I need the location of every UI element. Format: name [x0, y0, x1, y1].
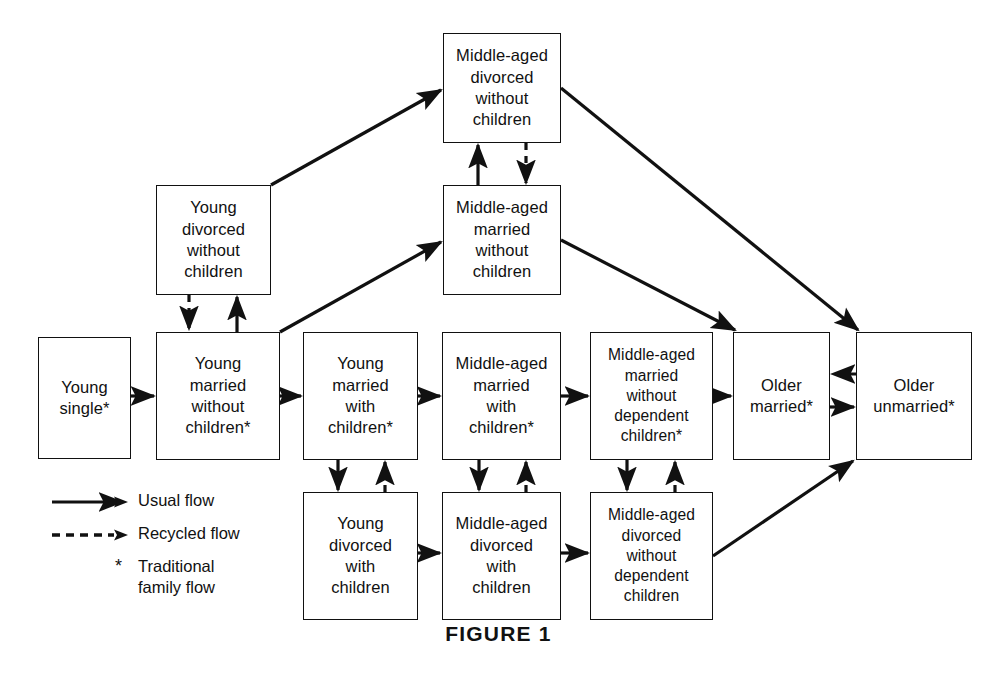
- edge-middle-aged-divorced-without-children-to-older-unmarried: [561, 88, 858, 330]
- node-middle-aged-divorced-with-children[interactable]: Middle-aged divorced with children: [442, 492, 561, 620]
- figure-caption: FIGURE 1: [0, 622, 997, 646]
- legend-label-recycled-flow: Recycled flow: [138, 523, 240, 544]
- node-older-unmarried[interactable]: Older unmarried*: [856, 332, 972, 460]
- node-young-married-without-children[interactable]: Young married without children*: [156, 332, 280, 460]
- edge-young-married-without-to-middle-aged-married-without: [280, 242, 441, 332]
- family-life-cycle-figure: Middle-aged divorced without children Yo…: [0, 0, 997, 680]
- node-middle-aged-divorced-without-children[interactable]: Middle-aged divorced without children: [443, 33, 561, 143]
- legend: Usual flow Recycled flow * Traditional f…: [52, 492, 302, 610]
- legend-item-usual-flow: Usual flow: [52, 492, 302, 512]
- node-older-married[interactable]: Older married*: [733, 332, 830, 460]
- edge-middle-aged-divorced-without-dependent-to-older-unmarried: [713, 461, 853, 556]
- node-middle-aged-married-without-children[interactable]: Middle-aged married without children: [443, 185, 561, 295]
- node-young-married-with-children[interactable]: Young married with children*: [303, 332, 418, 460]
- legend-label-traditional-family-flow: Traditional family flow: [138, 556, 215, 597]
- node-middle-aged-divorced-without-dependent-children[interactable]: Middle-aged divorced without dependent c…: [590, 492, 713, 620]
- node-young-divorced-without-children[interactable]: Young divorced without children: [156, 185, 271, 295]
- node-young-single[interactable]: Young single*: [38, 337, 131, 459]
- legend-label-usual-flow: Usual flow: [138, 490, 214, 511]
- dashed-arrow-icon: [52, 525, 128, 545]
- solid-arrow-icon: [52, 492, 128, 512]
- legend-item-recycled-flow: Recycled flow: [52, 525, 302, 545]
- node-middle-aged-married-without-dependent-children[interactable]: Middle-aged married without dependent ch…: [590, 332, 713, 460]
- asterisk-icon: *: [52, 558, 128, 574]
- node-middle-aged-married-with-children[interactable]: Middle-aged married with children*: [442, 332, 561, 460]
- legend-item-traditional-family-flow: * Traditional family flow: [52, 558, 302, 597]
- edge-young-divorced-without-to-middle-aged-divorced-without: [271, 90, 441, 185]
- node-young-divorced-with-children[interactable]: Young divorced with children: [303, 492, 418, 620]
- edge-middle-aged-married-without-children-to-older-married: [561, 240, 735, 330]
